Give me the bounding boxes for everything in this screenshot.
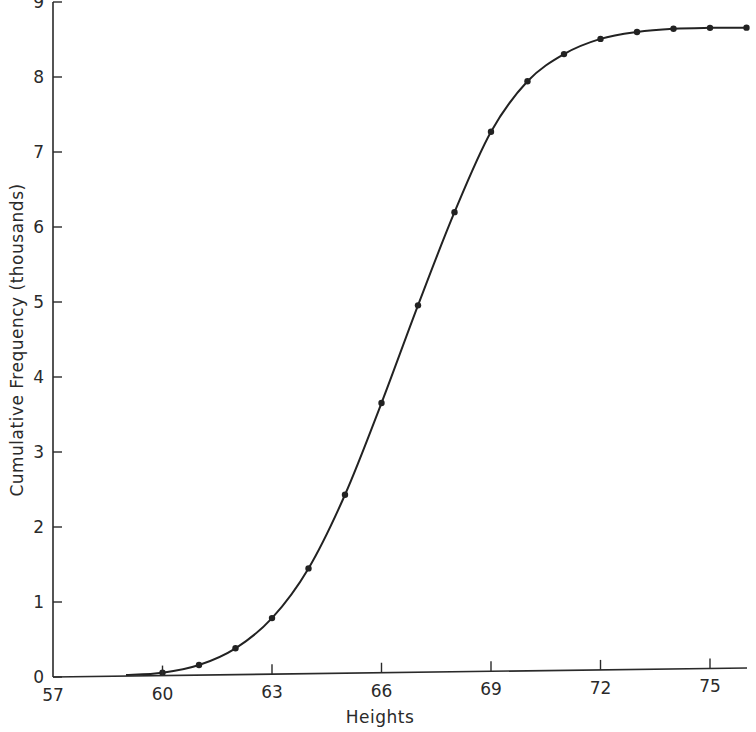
y-tick-label: 8 (33, 67, 44, 87)
y-axis-ticks: 0123456789 (33, 0, 62, 687)
data-point (634, 29, 640, 35)
ogive-curve (126, 28, 747, 675)
y-tick-label: 6 (33, 217, 44, 237)
data-point (524, 78, 530, 84)
data-point (707, 25, 713, 31)
data-point (415, 302, 421, 308)
y-tick-label: 0 (33, 667, 44, 687)
data-point (378, 400, 384, 406)
x-tick-label: 60 (152, 684, 174, 704)
y-tick-label: 5 (33, 292, 44, 312)
data-points (159, 24, 749, 675)
data-point (451, 209, 457, 215)
data-point (196, 662, 202, 668)
data-point (342, 492, 348, 498)
y-tick-label: 1 (33, 592, 44, 612)
x-tick-label: 63 (261, 682, 283, 702)
data-point (269, 615, 275, 621)
data-point (488, 129, 494, 135)
y-axis: 0123456789 Cumulative Frequency (thousan… (7, 0, 62, 687)
y-tick-label: 4 (33, 367, 44, 387)
y-tick-label: 3 (33, 442, 44, 462)
x-axis: 57606366697275 Heights (42, 658, 747, 727)
data-point (561, 51, 567, 57)
x-tick-label: 57 (42, 685, 64, 705)
y-tick-label: 7 (33, 142, 44, 162)
data-point (232, 645, 238, 651)
y-axis-title: Cumulative Frequency (thousands) (7, 183, 27, 496)
y-tick-label: 2 (33, 517, 44, 537)
cumulative-frequency-chart: 0123456789 Cumulative Frequency (thousan… (0, 0, 756, 732)
x-tick-label: 69 (480, 679, 502, 699)
plot-area (126, 24, 750, 675)
x-axis-title: Heights (346, 707, 415, 727)
data-point (670, 26, 676, 32)
data-point (743, 24, 749, 30)
x-tick-label: 66 (371, 681, 393, 701)
x-tick-label: 75 (699, 676, 721, 696)
y-tick-label: 9 (33, 0, 44, 12)
data-point (305, 565, 311, 571)
x-tick-label: 72 (590, 678, 612, 698)
data-point (597, 36, 603, 42)
x-axis-ticks: 57606366697275 (42, 658, 721, 705)
